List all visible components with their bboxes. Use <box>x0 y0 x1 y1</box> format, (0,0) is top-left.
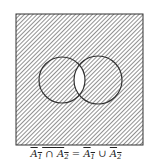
rhs-complement-a2: A2 <box>110 148 122 159</box>
rhs-union-op: ∪ <box>95 148 110 159</box>
lhs-intersection-op: ∩ <box>42 148 57 159</box>
rhs-set1: A <box>83 148 90 159</box>
equals-sign: = <box>69 148 84 159</box>
rhs-complement-a1: A1 <box>83 148 95 159</box>
venn-diagram <box>0 0 152 162</box>
caption-de-morgan: A1 ∩ A2 = A1 ∪ A2 <box>0 146 152 162</box>
rhs-sub2: 2 <box>117 153 121 161</box>
caption-lhs: A1 ∩ A2 <box>30 148 68 159</box>
rhs-set2: A <box>110 148 117 159</box>
lhs-set1: A <box>30 148 37 159</box>
